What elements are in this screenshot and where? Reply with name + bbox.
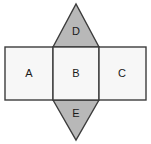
face-label-e: E [72, 107, 79, 119]
face-label-a: A [25, 67, 33, 79]
geometric-net-figure: A B C D E [0, 0, 151, 144]
face-label-c: C [118, 67, 126, 79]
face-label-b: B [72, 67, 79, 79]
face-label-d: D [72, 25, 80, 37]
net-diagram-canvas: A B C D E [0, 0, 151, 144]
